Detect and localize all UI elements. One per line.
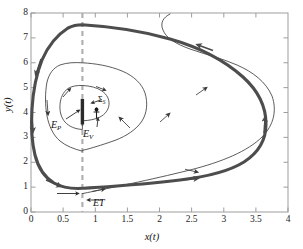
plot-canvas xyxy=(0,0,303,249)
label-sigma-subscript: S xyxy=(103,99,106,105)
x-tick-label-7: 3.5 xyxy=(250,215,262,225)
phase-portrait-figure: 0 0.5 1 1.5 2 2.5 3 3.5 4 0 1 2 3 4 5 6 … xyxy=(0,0,303,249)
y-tick-label-7: 7 xyxy=(18,33,28,43)
y-tick-label-4: 4 xyxy=(18,108,28,118)
y-tick-label-5: 5 xyxy=(18,83,28,93)
x-tick-label-2: 1 xyxy=(93,215,98,225)
y-tick-label-6: 6 xyxy=(18,58,28,68)
orbit-outer xyxy=(46,63,147,152)
x-tick-label-1: 0.5 xyxy=(57,215,69,225)
y-tick-label-3: 3 xyxy=(18,133,28,143)
label-ev-subscript: V xyxy=(89,133,93,140)
x-tick-label-3: 1.5 xyxy=(121,215,133,225)
label-ep-subscript: P xyxy=(57,124,61,131)
label-equilibrium-ev: EV xyxy=(83,129,93,141)
x-tick-label-4: 2 xyxy=(157,215,162,225)
x-tick-label-0: 0 xyxy=(29,215,34,225)
y-tick-label-1: 1 xyxy=(18,182,28,192)
limit-cycle xyxy=(32,25,266,189)
x-tick-label-6: 3 xyxy=(221,215,226,225)
label-et: ET xyxy=(93,198,105,208)
x-tick-label-8: 4 xyxy=(286,215,291,225)
x-tick-label-5: 2.5 xyxy=(186,215,198,225)
label-sigma-s: ΣS xyxy=(98,96,105,105)
y-tick-label-0: 0 xyxy=(18,207,28,217)
equilibrium-markers xyxy=(94,108,100,119)
y-tick-label-8: 8 xyxy=(18,8,28,18)
y-tick-label-2: 2 xyxy=(18,158,28,168)
y-axis-title: y(t) xyxy=(3,97,14,112)
x-axis-title: x(t) xyxy=(145,232,160,243)
label-equilibrium-ep: EP xyxy=(51,120,61,132)
